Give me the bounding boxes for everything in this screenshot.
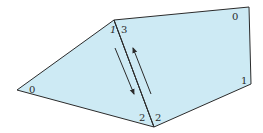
left-vertex-0-label: 0 xyxy=(29,84,35,95)
polygon-diagram: 0 1 2 3 0 1 2 xyxy=(0,0,263,133)
left-vertex-2-label: 2 xyxy=(139,112,145,123)
right-vertex-0-label: 0 xyxy=(232,11,238,22)
right-vertex-3-label: 3 xyxy=(121,24,127,35)
right-vertex-1-label: 1 xyxy=(241,75,247,86)
left-vertex-1-label: 1 xyxy=(110,24,116,35)
right-vertex-2-label: 2 xyxy=(155,112,161,123)
